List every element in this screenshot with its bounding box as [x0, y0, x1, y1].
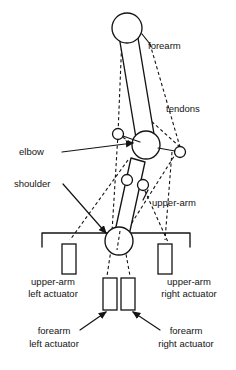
forearm-left-actuator — [103, 278, 117, 310]
arm-diagram-svg: forearm tendons elbow shoulder upper-arm… — [0, 0, 236, 370]
elbow-hub — [132, 131, 160, 159]
label-elbow: elbow — [19, 146, 44, 157]
label-upper-arm-right-actuator-line2: right actuator — [161, 288, 216, 299]
shoulder-joint — [105, 227, 133, 255]
label-upper-arm: upper-arm — [152, 197, 196, 208]
upper-arm-right-actuator — [158, 244, 172, 274]
arm-diagram: forearm tendons elbow shoulder upper-arm… — [0, 0, 236, 370]
label-forearm: forearm — [148, 40, 181, 51]
forearm-tip — [112, 13, 142, 43]
label-upper-arm-left-actuator-line1: upper-arm — [31, 276, 75, 287]
forearm-right-actuator-leader — [133, 312, 160, 330]
label-tendons: tendons — [166, 103, 200, 114]
label-forearm-left-actuator-line1: forearm — [38, 325, 71, 336]
elbow-pulley-right — [175, 147, 186, 158]
upper-arm-left-actuator — [62, 244, 76, 274]
forearm-left-actuator-leader — [80, 312, 106, 330]
elbow-spoke-right — [158, 148, 175, 151]
tendon-forearm-left-lower — [112, 134, 118, 232]
tendon-upperarm-right — [165, 152, 172, 240]
label-upper-arm-left-actuator-line2: left actuator — [28, 288, 78, 299]
forearm-right-actuator — [121, 278, 135, 310]
elbow-leader — [62, 143, 133, 152]
upper-arm-pulley-right — [138, 180, 149, 191]
tendon-forearm-right-upper — [150, 44, 180, 147]
upper-arm-pulley-left — [122, 175, 133, 186]
elbow-pulley-left — [113, 129, 124, 140]
label-shoulder: shoulder — [14, 178, 50, 189]
label-forearm-right-actuator-line2: right actuator — [158, 338, 213, 349]
label-forearm-right-actuator-line1: forearm — [170, 325, 203, 336]
label-upper-arm-right-actuator-line1: upper-arm — [167, 276, 211, 287]
label-forearm-left-actuator-line2: left actuator — [29, 338, 79, 349]
shoulder-leader — [63, 184, 106, 233]
shoulder-hub — [105, 227, 133, 255]
